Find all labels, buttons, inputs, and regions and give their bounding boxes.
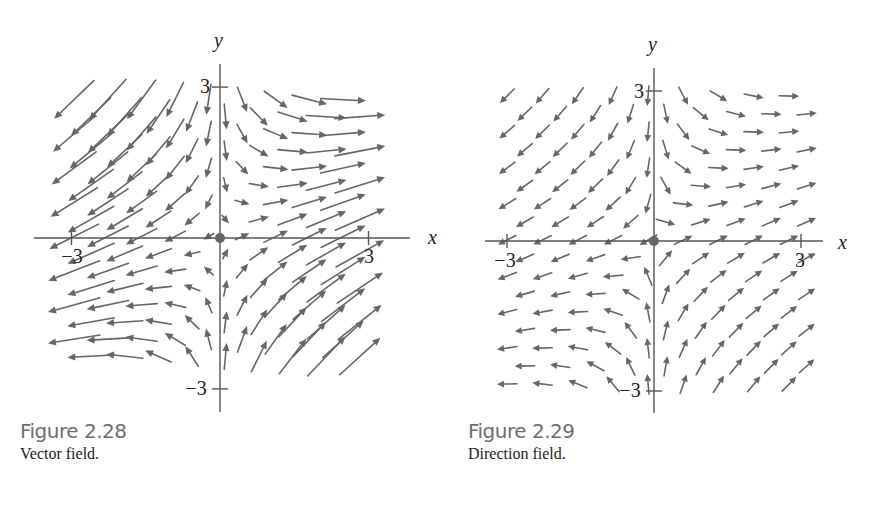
field-arrow: [88, 115, 128, 153]
field-arrow: [125, 302, 157, 309]
field-arrow: [553, 143, 567, 157]
field-arrow: [623, 215, 638, 228]
field-arrow: [726, 147, 746, 154]
y-tick-label: 3: [200, 75, 210, 97]
field-arrow: [264, 231, 288, 243]
field-arrow: [184, 250, 200, 257]
field-arrow: [238, 326, 248, 352]
field-arrow: [292, 163, 327, 170]
field-arrow: [746, 270, 763, 281]
field-arrow: [748, 376, 761, 391]
field-arrow: [662, 285, 670, 304]
figure-2-29-caption: Figure 2.29 Direction field.: [468, 420, 574, 464]
field-arrow: [165, 333, 185, 345]
vector-field-plot: −333−3xy: [34, 29, 437, 412]
field-arrow: [221, 215, 229, 223]
field-arrow: [535, 162, 550, 175]
field-arrow: [606, 197, 621, 211]
field-arrow: [307, 242, 346, 264]
field-arrow: [221, 248, 228, 258]
field-arrow: [222, 343, 229, 369]
field-arrow: [126, 154, 156, 182]
field-arrow: [250, 145, 269, 156]
field-arrow: [661, 177, 671, 194]
field-arrow: [265, 293, 287, 317]
x-tick-label: −3: [61, 245, 82, 267]
field-arrow: [306, 179, 346, 191]
field-arrow: [497, 381, 517, 388]
field-arrow: [87, 263, 129, 279]
field-arrow: [780, 200, 799, 208]
field-arrow: [762, 218, 780, 226]
field-arrow: [625, 322, 637, 338]
field-arrow: [145, 285, 172, 292]
field-arrow: [67, 281, 114, 297]
field-arrow: [780, 164, 799, 171]
field-arrow: [308, 336, 346, 376]
field-arrow: [692, 146, 710, 154]
field-arrow: [550, 362, 570, 369]
field-arrow: [145, 211, 170, 228]
field-arrow: [781, 271, 798, 282]
field-arrow: [782, 341, 797, 354]
field-arrow: [762, 111, 782, 118]
direction-field-plot: −333−3xy: [485, 33, 847, 413]
field-arrow: [663, 320, 670, 339]
field-arrow: [205, 297, 212, 313]
field-arrow: [321, 97, 366, 104]
field-arrow: [677, 269, 691, 284]
field-arrow: [264, 262, 287, 280]
field-arrow: [500, 89, 514, 103]
field-arrow: [515, 327, 535, 334]
field-arrow: [236, 162, 248, 175]
field-arrow: [536, 88, 549, 103]
field-arrow: [499, 125, 514, 138]
field-arrow: [278, 148, 308, 155]
field-arrow: [569, 235, 587, 244]
arrows: [48, 79, 385, 376]
field-arrow: [321, 129, 366, 136]
axes: −333−3xy: [485, 33, 847, 413]
field-arrow: [797, 146, 817, 153]
field-arrow: [744, 129, 764, 136]
field-arrow: [279, 307, 307, 336]
field-arrow: [713, 340, 725, 356]
field-arrow: [164, 268, 186, 275]
field-arrow: [551, 254, 569, 262]
field-arrow: [184, 284, 200, 291]
field-arrow: [515, 254, 533, 262]
field-arrow: [278, 112, 308, 122]
field-arrow: [106, 351, 143, 358]
field-arrow: [550, 291, 570, 298]
field-arrow: [185, 315, 199, 329]
field-arrow: [605, 342, 621, 354]
field-arrow: [237, 87, 247, 112]
field-arrow: [745, 236, 763, 245]
field-arrow: [675, 162, 691, 174]
field-arrow: [165, 231, 186, 242]
field-arrow: [205, 195, 212, 209]
field-arrow: [550, 327, 570, 334]
field-arrow: [677, 124, 689, 140]
x-tick-label: −3: [494, 249, 515, 271]
origin-dot: [215, 233, 225, 243]
field-arrow: [797, 110, 817, 117]
field-arrow: [644, 302, 651, 322]
field-arrow: [204, 266, 213, 275]
field-arrow: [498, 272, 517, 280]
figure-2-28-caption: Figure 2.28 Vector field.: [20, 420, 126, 464]
field-arrow: [307, 274, 346, 302]
field-arrow: [586, 361, 604, 371]
field-arrow: [222, 104, 229, 129]
field-arrow: [222, 141, 229, 161]
field-arrow: [535, 125, 549, 139]
field-arrow: [126, 229, 157, 245]
field-arrow: [570, 161, 584, 175]
field-arrow: [644, 122, 651, 142]
field-arrow: [587, 217, 604, 228]
y-axis-label: y: [646, 33, 657, 56]
field-arrow: [87, 301, 129, 312]
x-axis-label: x: [427, 226, 437, 248]
field-arrow: [293, 291, 326, 320]
field-arrow: [235, 199, 249, 206]
